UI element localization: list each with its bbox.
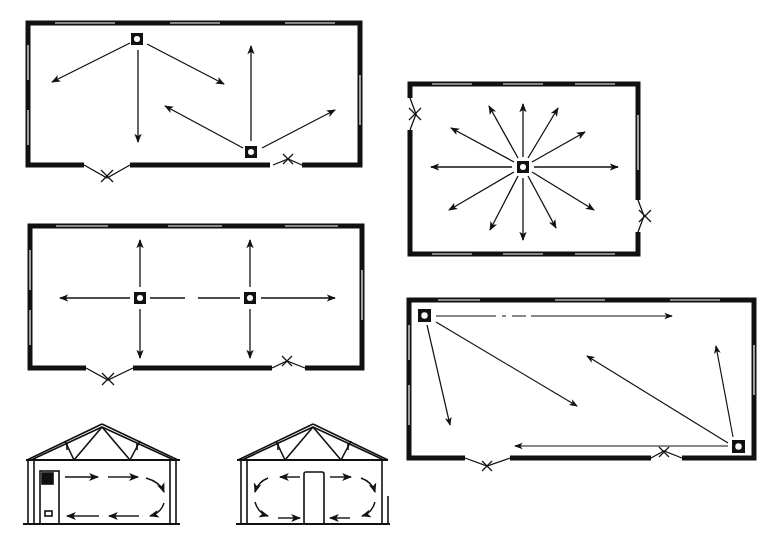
- airflow-arrows: [427, 316, 733, 446]
- heater-icon: [517, 161, 529, 173]
- heater-unit: [304, 472, 324, 524]
- windows: [409, 300, 754, 425]
- airflow-arrows: [255, 477, 375, 518]
- heater-icon: [244, 292, 256, 304]
- door-icon: [638, 200, 651, 232]
- heater-icon: [131, 33, 143, 45]
- door-icon: [86, 368, 133, 385]
- walls: [23, 460, 180, 524]
- plan-1: [28, 23, 360, 182]
- walls: [28, 23, 360, 165]
- heater-unit: [40, 471, 59, 524]
- door-icon: [273, 154, 302, 165]
- windows: [432, 84, 638, 254]
- airflow-arrows: [60, 240, 335, 358]
- section-2: [236, 424, 390, 524]
- windows: [30, 226, 362, 345]
- roof-truss: [26, 424, 180, 460]
- door-icon: [84, 165, 130, 182]
- diagram-canvas: [0, 0, 772, 538]
- door-icon: [465, 458, 510, 471]
- roof-truss: [237, 424, 388, 460]
- walls: [409, 300, 754, 458]
- airflow-arrows: [52, 43, 335, 148]
- plan-3: [30, 226, 362, 385]
- plan-4: [409, 300, 754, 471]
- section-1: [23, 424, 180, 524]
- walls: [30, 226, 362, 368]
- airflow-arrows: [65, 477, 164, 516]
- door-icon: [651, 447, 682, 458]
- windows: [28, 23, 360, 145]
- plan-2: [409, 84, 651, 254]
- heater-icon: [732, 440, 745, 453]
- door-icon: [272, 356, 305, 368]
- heater-icon: [134, 292, 146, 304]
- heater-icon: [418, 309, 431, 322]
- heater-icon: [245, 146, 257, 158]
- door-icon: [409, 98, 421, 130]
